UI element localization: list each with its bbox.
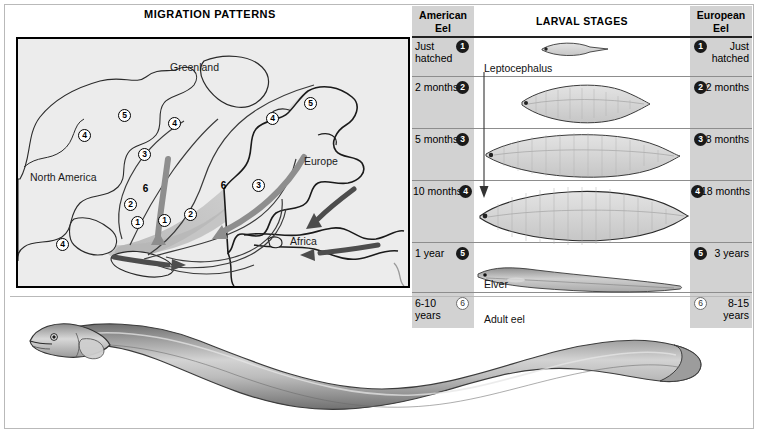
american-row-1-line2: hatched [415,52,452,64]
american-row-3: 5 months [415,133,458,145]
map-label-europe: Europe [304,155,338,167]
stage-badge-american-3[interactable]: 3 [456,133,469,146]
map-marker-3a[interactable]: 3 [138,148,151,161]
map-marker-5a[interactable]: 5 [118,109,131,122]
map-marker-1a[interactable]: 1 [131,216,144,229]
header-european-eel: European Eel [690,6,752,36]
larva-stage-2 [522,85,650,123]
european-row-1-line1: Just [712,40,749,52]
map-marker-6b[interactable]: 6 [217,179,230,192]
map-frame: Greenland North America Europe Africa 5 … [16,37,410,288]
stage-badge-european-1[interactable]: 1 [694,40,707,53]
header-american-line2: Eel [412,22,474,35]
map-marker-5b[interactable]: 5 [304,97,317,110]
adult-eel-panel [10,296,750,427]
stage-badge-american-2[interactable]: 2 [456,81,469,94]
stage-badge-american-5[interactable]: 5 [456,247,469,260]
larva-stage-4 [480,187,688,245]
larva-stage-3 [486,133,680,177]
growth-arrow [480,72,489,198]
map-title: MIGRATION PATTERNS [10,8,410,20]
map-marker-6a[interactable]: 6 [139,182,152,195]
european-row-1-line2: hatched [712,52,749,64]
map-label-greenland: Greenland [170,61,219,73]
american-row-1-line1: Just [415,40,452,52]
header-american-eel: American Eel [412,6,474,36]
stage-badge-european-2[interactable]: 2 [694,81,707,94]
map-label-north-america: North America [30,171,100,183]
european-row-5: 3 years [715,247,749,259]
american-row-2: 2 months [415,81,458,93]
european-row-3: 8 months [706,133,749,145]
caption-elver: Elver [484,278,508,290]
larval-stages-table: American Eel LARVAL STAGES European Eel [412,6,752,328]
map-marker-1b[interactable]: 1 [158,214,171,227]
stage-badge-american-1[interactable]: 1 [456,40,469,53]
larva-stage-5-elver [478,268,682,292]
european-row-1: Just hatched [712,40,749,64]
european-row-4: 18 months [701,185,750,197]
larva-stage-1 [542,43,608,55]
map-marker-4d[interactable]: 4 [56,238,69,251]
map-marker-4b[interactable]: 4 [266,112,279,125]
european-row-2: 2 months [706,81,749,93]
map-marker-4a[interactable]: 4 [168,117,181,130]
map-marker-2b[interactable]: 2 [184,208,197,221]
stage-badge-european-4[interactable]: 4 [691,185,704,198]
caption-leptocephalus: Leptocephalus [484,62,552,74]
american-row-4: 10 months [413,185,462,197]
header-larval-stages: LARVAL STAGES [474,6,690,36]
map-marker-2a[interactable]: 2 [124,198,137,211]
stage-badge-american-4[interactable]: 4 [459,185,472,198]
map-marker-3b[interactable]: 3 [252,179,265,192]
adult-eel-illustration [10,297,750,425]
american-row-1: Just hatched [415,40,452,64]
map-label-africa: Africa [290,235,317,247]
map-graphic [18,39,408,286]
header-european-line1: European [690,9,752,22]
eel-lifecycle-diagram: MIGRATION PATTERNS [0,0,758,433]
header-american-line1: American [412,9,474,22]
migration-map-panel: MIGRATION PATTERNS [10,6,410,294]
header-european-line2: Eel [690,22,752,35]
american-row-5: 1 year [415,247,444,259]
map-marker-4c[interactable]: 4 [78,129,91,142]
stage-badge-european-5[interactable]: 5 [694,247,707,260]
stage-badge-european-3[interactable]: 3 [694,133,707,146]
